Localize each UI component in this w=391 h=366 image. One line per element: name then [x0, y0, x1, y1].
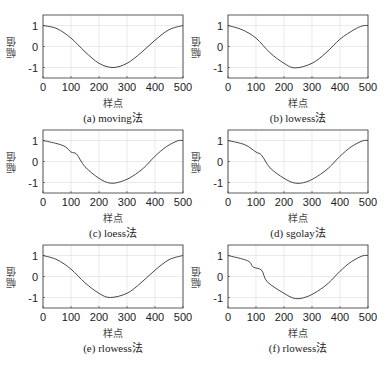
x-tick-label: 100 — [247, 81, 265, 93]
x-tick-label: 0 — [225, 81, 231, 93]
y-tick-label: 1 — [217, 20, 223, 32]
y-tick-label: 0 — [217, 156, 223, 168]
x-tick-label: 400 — [331, 196, 349, 208]
y-axis-label: 幅值 — [189, 151, 203, 173]
y-tick-label: -1 — [28, 62, 38, 74]
x-tick-label: 200 — [90, 311, 108, 323]
y-tick-label: 1 — [217, 250, 223, 262]
x-tick-label: 100 — [62, 311, 80, 323]
x-tick-label: 100 — [62, 196, 80, 208]
x-tick-label: 400 — [146, 311, 164, 323]
x-tick-label: 500 — [359, 81, 377, 93]
x-tick-label: 0 — [225, 196, 231, 208]
y-axis-label: 幅值 — [189, 266, 203, 288]
caption: (e) rlowess法 — [43, 339, 183, 355]
y-axis-label: 幅值 — [4, 36, 18, 58]
x-tick-label: 300 — [303, 81, 321, 93]
x-tick-label: 0 — [40, 311, 46, 323]
y-tick-label: 1 — [32, 250, 38, 262]
x-tick-label: 300 — [303, 196, 321, 208]
x-tick-label: 500 — [359, 196, 377, 208]
y-tick-label: 1 — [217, 135, 223, 147]
y-axis-label: 幅值 — [189, 36, 203, 58]
x-axis-label: 样点 — [43, 210, 183, 225]
x-axis-label: 样点 — [228, 210, 368, 225]
panel-c: 0100200300400500-101 幅值 样点 (c) loess法 — [0, 115, 195, 235]
x-axis-label: 样点 — [228, 325, 368, 340]
y-axis-label: 幅值 — [4, 151, 18, 173]
y-tick-label: 0 — [32, 271, 38, 283]
y-tick-label: -1 — [213, 177, 223, 189]
x-tick-label: 400 — [146, 196, 164, 208]
x-tick-label: 300 — [118, 81, 136, 93]
y-tick-label: 1 — [32, 20, 38, 32]
y-tick-label: 0 — [32, 41, 38, 53]
y-tick-label: -1 — [28, 292, 38, 304]
x-tick-label: 100 — [247, 196, 265, 208]
x-tick-label: 300 — [118, 196, 136, 208]
x-tick-label: 100 — [247, 311, 265, 323]
caption: (f) rlowess法 — [228, 339, 368, 355]
x-axis-label: 样点 — [43, 325, 183, 340]
data-line — [43, 140, 183, 183]
data-line — [228, 140, 368, 183]
y-tick-label: -1 — [213, 292, 223, 304]
x-tick-label: 100 — [62, 81, 80, 93]
x-tick-label: 200 — [275, 311, 293, 323]
x-tick-label: 0 — [40, 196, 46, 208]
panel-f: 0100200300400500-101 幅值 样点 (f) rlowess法 — [185, 230, 380, 350]
x-tick-label: 200 — [90, 81, 108, 93]
x-tick-label: 200 — [275, 81, 293, 93]
y-tick-label: -1 — [28, 177, 38, 189]
x-tick-label: 400 — [331, 81, 349, 93]
x-tick-label: 400 — [331, 311, 349, 323]
panel-d: 0100200300400500-101 幅值 样点 (d) sgolay法 — [185, 115, 380, 235]
panel-a: 0100200300400500-101 幅值 样点 (a) moving法 — [0, 0, 195, 120]
x-axis-label: 样点 — [43, 95, 183, 110]
x-tick-label: 300 — [118, 311, 136, 323]
x-tick-label: 0 — [225, 311, 231, 323]
y-tick-label: 0 — [217, 271, 223, 283]
panel-e: 0100200300400500-101 幅值 样点 (e) rlowess法 — [0, 230, 195, 350]
x-tick-label: 500 — [359, 311, 377, 323]
x-axis-label: 样点 — [228, 95, 368, 110]
y-tick-label: 1 — [32, 135, 38, 147]
x-tick-label: 400 — [146, 81, 164, 93]
panel-b: 0100200300400500-101 幅值 样点 (b) lowess法 — [185, 0, 380, 120]
data-line — [228, 255, 368, 298]
x-tick-label: 0 — [40, 81, 46, 93]
x-tick-label: 200 — [90, 196, 108, 208]
y-tick-label: -1 — [213, 62, 223, 74]
y-tick-label: 0 — [217, 41, 223, 53]
y-tick-label: 0 — [32, 156, 38, 168]
x-tick-label: 300 — [303, 311, 321, 323]
y-axis-label: 幅值 — [4, 266, 18, 288]
x-tick-label: 200 — [275, 196, 293, 208]
